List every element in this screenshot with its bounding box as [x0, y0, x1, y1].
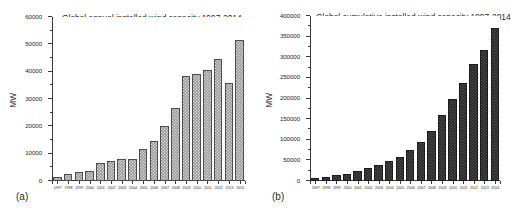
x-tick-b: 2000 [347, 181, 348, 184]
x-tick-label-b: 2009 [438, 187, 446, 191]
panel-b: Global cumulative installed wind capacit… [256, 0, 511, 214]
x-tick-label-b: 2013 [481, 187, 489, 191]
x-tick-label-a: 2013 [225, 187, 233, 191]
y-minor-tick-a [50, 84, 52, 85]
x-tick-b: 2014 [495, 181, 496, 184]
y-tick-label-a: 30000 [25, 95, 42, 101]
y-tick-b: 50000 [306, 159, 310, 160]
bar-2005-a [139, 149, 148, 181]
y-tick-label-b: 100000 [280, 136, 300, 142]
bar-2001-b [353, 171, 361, 181]
x-tick-a: 2003 [122, 181, 123, 184]
x-edge-tick-b [310, 181, 311, 184]
x-tick-label-a: 2001 [97, 187, 105, 191]
x-tick-a: 1998 [68, 181, 69, 184]
y-minor-tick-b [308, 170, 310, 171]
y-tick-label-a: 10000 [25, 150, 42, 156]
y-minor-tick-a [50, 57, 52, 58]
x-tick-a: 2008 [175, 181, 176, 184]
x-tick-label-a: 2004 [129, 187, 137, 191]
y-minor-tick-a [50, 139, 52, 140]
y-minor-tick-b [308, 149, 310, 150]
x-tick-a: 2000 [90, 181, 91, 184]
x-tick-b: 2007 [421, 181, 422, 184]
x-tick-label-b: 2014 [491, 187, 499, 191]
bar-2007-a [160, 126, 169, 181]
bar-2006-b [406, 150, 414, 181]
y-tick-b: 150000 [306, 118, 310, 119]
bar-2010-b [448, 99, 456, 181]
x-tick-label-a: 2014 [236, 187, 244, 191]
x-tick-a: 1999 [79, 181, 80, 184]
x-tick-label-b: 2007 [417, 187, 425, 191]
y-minor-tick-b [308, 67, 310, 68]
bar-2003-b [374, 165, 382, 181]
y-axis-label-a: MW [9, 93, 17, 108]
bar-1998-a [64, 174, 73, 181]
x-tick-label-b: 2008 [428, 187, 436, 191]
x-tick-a: 2004 [132, 181, 133, 184]
y-tick-a: 30000 [48, 98, 52, 99]
y-minor-tick-b [308, 25, 310, 26]
x-tick-label-b: 2005 [396, 187, 404, 191]
x-tick-label-a: 2007 [161, 187, 169, 191]
y-tick-a: 20000 [48, 125, 52, 126]
x-tick-label-a: 2000 [86, 187, 94, 191]
bar-1999-a [75, 172, 84, 181]
y-minor-tick-b [308, 108, 310, 109]
y-tick-b: 300000 [306, 56, 310, 57]
bar-2010-a [192, 74, 201, 181]
x-edge-tick-a [245, 181, 246, 184]
x-tick-a: 2012 [218, 181, 219, 184]
y-axis-label-b: MW [265, 93, 273, 108]
x-tick-a: 2001 [100, 181, 101, 184]
bar-2007-b [417, 142, 425, 181]
bar-2003-a [117, 159, 126, 181]
y-tick-label-b: 150000 [280, 116, 300, 122]
x-tick-a: 2009 [186, 181, 187, 184]
x-tick-label-b: 1998 [322, 187, 330, 191]
x-tick-b: 1998 [326, 181, 327, 184]
x-tick-a: 2007 [165, 181, 166, 184]
x-tick-b: 2009 [442, 181, 443, 184]
x-tick-label-a: 2005 [140, 187, 148, 191]
plot-area-b: 0500001000001500002000002500003000003500… [310, 16, 500, 181]
y-tick-label-b: 250000 [280, 74, 300, 80]
x-tick-label-a: 2010 [193, 187, 201, 191]
y-minor-tick-b [308, 128, 310, 129]
y-minor-tick-b [308, 87, 310, 88]
bar-2000-a [85, 171, 94, 181]
panel-label-b: (b) [272, 192, 284, 202]
x-tick-label-b: 2000 [343, 187, 351, 191]
x-tick-b: 2013 [484, 181, 485, 184]
bar-2002-a [107, 161, 116, 181]
x-tick-label-a: 1997 [54, 187, 62, 191]
x-tick-label-a: 2002 [107, 187, 115, 191]
bar-2014-a [235, 40, 244, 181]
x-tick-a: 1997 [57, 181, 58, 184]
bar-2008-a [171, 108, 180, 181]
x-tick-label-a: 2006 [150, 187, 158, 191]
x-tick-a: 2006 [154, 181, 155, 184]
x-tick-b: 1997 [315, 181, 316, 184]
bar-2013-b [480, 50, 488, 181]
x-tick-b: 2004 [389, 181, 390, 184]
x-tick-a: 2011 [207, 181, 208, 184]
x-tick-label-a: 2011 [204, 187, 212, 191]
y-tick-a: 10000 [48, 153, 52, 154]
y-tick-label-b: 400000 [280, 12, 300, 18]
bar-2012-a [214, 59, 223, 181]
x-tick-label-a: 2012 [215, 187, 223, 191]
x-tick-a: 2005 [143, 181, 144, 184]
bar-series-a [52, 17, 245, 181]
x-edge-tick-b [500, 181, 501, 184]
x-tick-label-b: 2011 [460, 187, 468, 191]
bar-2004-a [128, 159, 137, 181]
panel-label-a: (a) [16, 192, 28, 202]
x-tick-label-b: 2001 [354, 187, 362, 191]
x-tick-b: 2012 [474, 181, 475, 184]
y-tick-b: 250000 [306, 77, 310, 78]
y-minor-tick-a [50, 112, 52, 113]
y-tick-b: 400000 [306, 15, 310, 16]
bar-2001-a [96, 163, 105, 181]
